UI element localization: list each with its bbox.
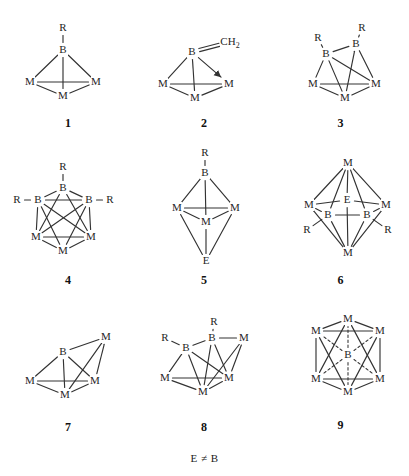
atom-R-left: R — [314, 31, 322, 43]
bond-line — [184, 211, 199, 218]
bond-line — [232, 345, 242, 371]
structure-caption-9: 9 — [272, 418, 409, 433]
structure-diagram-3: RBRBMMM — [272, 8, 409, 108]
bond-line — [68, 55, 90, 77]
atom-M-front: M — [340, 91, 350, 103]
atom-M-left: M — [308, 77, 318, 89]
structure-5: RBMMME5 — [136, 145, 272, 270]
bond-line — [63, 359, 64, 387]
structure-diagram-5: RBMMME — [136, 145, 272, 270]
atom-M-center: M — [201, 215, 211, 227]
bond-line — [354, 201, 378, 204]
bond-line — [351, 338, 376, 386]
atom-M-right: M — [90, 374, 100, 386]
atom-M-right: M — [224, 77, 234, 89]
structure-caption-4: 4 — [0, 273, 136, 288]
atom-M-top: M — [343, 156, 353, 168]
atom-M-back: M — [239, 331, 249, 343]
bond-line — [172, 381, 196, 390]
atom-B-left: B — [182, 341, 189, 353]
bond-line — [37, 384, 58, 392]
bond-line — [351, 222, 363, 247]
atom-M-right: M — [91, 75, 101, 87]
bond-line — [182, 179, 201, 202]
bond-line — [347, 170, 348, 192]
structure-caption-1: 1 — [0, 116, 136, 131]
bond-line — [169, 354, 181, 372]
structure-diagram-9: MMMBMMM — [272, 305, 409, 415]
bond-line — [70, 240, 85, 247]
atom-M-left: M — [304, 198, 314, 210]
bond-line — [172, 341, 179, 345]
bond-line — [66, 207, 85, 245]
atom-M-right: M — [86, 230, 96, 242]
atom-M-lower-right: M — [375, 372, 385, 384]
structure-diagram-6: MMEMBBRRM — [272, 150, 409, 270]
structure-7: BMMMM7 — [0, 315, 136, 415]
atom-B-interstitial: B — [344, 348, 351, 360]
atom-M-bottom: M — [343, 385, 353, 397]
structure-caption-7: 7 — [0, 420, 136, 435]
bond-line — [72, 384, 88, 392]
figure-footnote: E ≠ B — [0, 452, 409, 464]
bond-line — [192, 59, 194, 90]
atom-M-left: M — [160, 371, 170, 383]
bond-line — [70, 191, 82, 197]
atom-B-right: B — [363, 208, 370, 220]
bond-line — [168, 58, 187, 79]
atom-M-left: M — [158, 77, 168, 89]
bond-line — [42, 204, 83, 232]
atom-M-front: M — [58, 89, 68, 101]
bond-line — [333, 46, 349, 51]
structure-diagram-8: RBRBMMMM — [136, 310, 272, 415]
bond-line — [355, 382, 373, 389]
bond-line — [181, 215, 203, 255]
structure-1: RBMMM1 — [0, 8, 136, 108]
structure-diagram-1: RBMMM — [0, 8, 136, 108]
atom-R-apex: R — [201, 146, 209, 158]
bond-line — [374, 208, 380, 211]
bond-line — [69, 357, 90, 376]
atom-B-left: B — [34, 193, 41, 205]
atom-R-left: R — [303, 223, 311, 235]
structure-3: RBRBMMM3 — [272, 8, 409, 108]
figure-sheet: RBMMM1BCH2MMM2RBRBMMM3RBRBRBMMM4RBMMME5M… — [0, 0, 409, 476]
atom-R-right: R — [358, 21, 366, 33]
atom-B-right: B — [85, 193, 92, 205]
bond-line — [210, 382, 223, 389]
bond-line — [347, 207, 348, 245]
bond-line — [37, 85, 56, 93]
atom-M-back: M — [101, 330, 111, 342]
bond-line — [316, 208, 322, 211]
bond-line — [314, 168, 343, 199]
atom-E-apex: E — [203, 254, 210, 266]
bond-line — [316, 61, 323, 77]
atom-M-top: M — [343, 312, 353, 324]
atom-M-right: M — [230, 201, 240, 213]
structure-caption-6: 6 — [272, 273, 409, 288]
atom-B-apex: B — [59, 43, 66, 55]
bond-line — [36, 357, 58, 376]
atom-M-front: M — [58, 244, 68, 256]
bond-line — [320, 87, 338, 95]
bond-line — [319, 338, 344, 386]
structure-caption-3: 3 — [272, 116, 409, 131]
bond-line — [35, 55, 57, 77]
atom-B-left: B — [322, 47, 329, 59]
bond-line — [45, 191, 56, 197]
bond-line — [323, 382, 341, 389]
bond-line — [316, 201, 339, 204]
bond-line — [329, 61, 342, 91]
atom-R-left: R — [13, 193, 21, 205]
atom-M-right: M — [371, 77, 381, 89]
bond-line — [189, 355, 201, 385]
structure-caption-2: 2 — [136, 116, 272, 131]
bond-line — [359, 51, 372, 78]
atom-B-apex: B — [201, 166, 208, 178]
bond-line — [205, 180, 206, 214]
bond-line — [41, 207, 59, 245]
atom-B-right: B — [208, 331, 215, 343]
atom-CH2-subscript: 2 — [236, 41, 240, 50]
atom-M-upper-left: M — [311, 324, 321, 336]
bond-line — [43, 240, 57, 247]
